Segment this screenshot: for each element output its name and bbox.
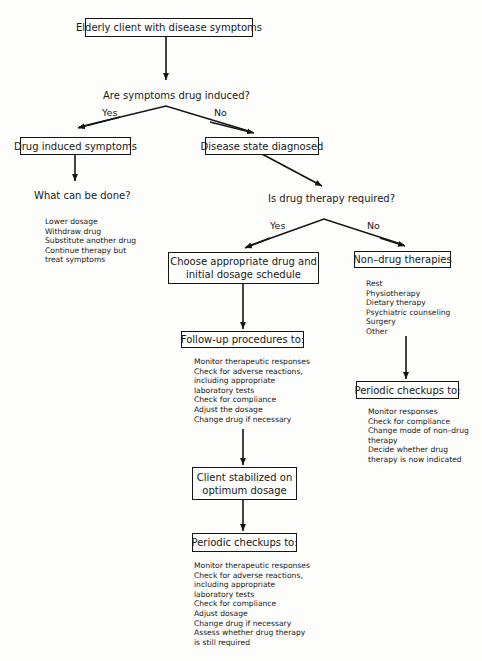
branch-label-no-1: No [214, 107, 227, 118]
node-non-drug-label: Non–drug therapies [353, 253, 451, 266]
list-item: Other [366, 327, 450, 337]
list-item: Monitor therapeutic responses [194, 357, 310, 367]
list-item: Psychiatric counseling [366, 308, 450, 318]
question-drug-therapy-required: Is drug therapy required? [268, 193, 395, 204]
list-item: including appropriate [194, 376, 310, 386]
question-what-can-be-done: What can be done? [34, 190, 131, 201]
list-item: Check for compliance [194, 395, 310, 405]
list-item: Check for adverse reactions, [194, 571, 310, 581]
question-drug-induced: Are symptoms drug induced? [103, 90, 250, 101]
node-client-stabilized: Client stabilized on optimum dosage [192, 467, 297, 500]
list-item: therapy is now indicated [368, 455, 469, 465]
list-item: Physiotherapy [366, 289, 450, 299]
list-item: laboratory tests [194, 386, 310, 396]
node-choose-drug: Choose appropriate drug and initial dosa… [168, 252, 319, 284]
list-item: Surgery [366, 317, 450, 327]
node-elderly-client: Elderly client with disease symptoms [85, 18, 253, 37]
node-stabilized-line1: Client stabilized on [197, 471, 292, 484]
list-item: Check for compliance [368, 417, 469, 427]
node-stabilized-line2: optimum dosage [202, 484, 286, 497]
arrow-q2-no [380, 238, 405, 246]
branch-label-no-2: No [367, 220, 380, 231]
node-periodic-checkups-mid: Periodic checkups to: [192, 533, 297, 552]
list-item: Substitute another drug [45, 236, 136, 246]
node-disease-diagnosed-label: Disease state diagnosed [201, 140, 324, 153]
node-choose-drug-line1: Choose appropriate drug and [170, 255, 317, 268]
list-item: Dietary therapy [366, 298, 450, 308]
list-item: Continue therapy but [45, 246, 136, 256]
list-item: therapy [368, 436, 469, 446]
list-periodic-checkups-mid: Monitor therapeutic responses Check for … [194, 561, 310, 647]
node-drug-induced-symptoms: Drug induced symptoms [20, 137, 131, 155]
node-periodic-checkups-right: Periodic checkups to: [356, 381, 459, 399]
node-drug-induced-label: Drug induced symptoms [14, 140, 137, 153]
list-non-drug-therapies: Rest Physiotherapy Dietary therapy Psych… [366, 279, 450, 337]
list-item: Check for adverse reactions, [194, 367, 310, 377]
list-periodic-checkups-right: Monitor responses Check for compliance C… [368, 407, 469, 465]
list-item: including appropriate [194, 580, 310, 590]
list-item: Adjust the dosage [194, 405, 310, 415]
node-periodic-mid-label: Periodic checkups to: [191, 536, 297, 549]
list-item: Lower dosage [45, 217, 136, 227]
list-follow-up-procedures: Monitor therapeutic responses Check for … [194, 357, 310, 424]
arrow-q1-no [210, 122, 254, 133]
list-item: Check for compliance [194, 599, 310, 609]
node-disease-state-diagnosed: Disease state diagnosed [205, 137, 319, 155]
branch-label-yes-2: Yes [270, 220, 285, 231]
arrow-q2-yes [245, 238, 270, 248]
node-periodic-right-label: Periodic checkups to: [354, 384, 460, 397]
list-what-can-be-done: Lower dosage Withdraw drug Substitute an… [45, 217, 136, 265]
list-item: Adjust dosage [194, 609, 310, 619]
list-item: Withdraw drug [45, 227, 136, 237]
arrow-disease-to-q2 [262, 154, 322, 186]
list-item: Rest [366, 279, 450, 289]
branch-label-yes-1: Yes [102, 107, 117, 118]
node-non-drug-therapies: Non–drug therapies [354, 251, 451, 268]
node-follow-up-procedures: Follow-up procedures to: [181, 331, 304, 348]
list-item: Monitor therapeutic responses [194, 561, 310, 571]
arrow-q1-yes [78, 117, 120, 128]
list-item: Change drug if necessary [194, 415, 310, 425]
node-choose-drug-line2: initial dosage schedule [186, 268, 301, 281]
list-item: Monitor responses [368, 407, 469, 417]
node-follow-up-label: Follow-up procedures to: [181, 333, 304, 346]
list-item: laboratory tests [194, 590, 310, 600]
list-item: Change drug if necessary [194, 619, 310, 629]
list-item: treat symptoms [45, 255, 136, 265]
list-item: Decide whether drug [368, 445, 469, 455]
list-item: is still required [194, 638, 310, 648]
list-item: Change mode of non–drug [368, 426, 469, 436]
node-elderly-client-label: Elderly client with disease symptoms [76, 21, 262, 34]
list-item: Assess whether drug therapy [194, 628, 310, 638]
